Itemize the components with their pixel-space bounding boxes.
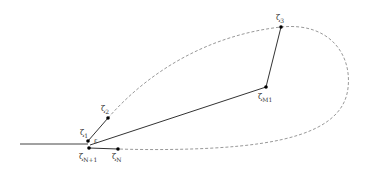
contour-diagram: ζ1 ζ2 ζ3 ζM1 ε ζN+1 ζN <box>0 0 369 174</box>
label-zeta1: ζ1 <box>80 129 88 139</box>
segment-epsilon-zetaM1 <box>90 87 266 145</box>
diagram-canvas <box>0 0 369 174</box>
label-zetaM1-sub: M1 <box>262 96 272 103</box>
segment-zetaM1-zeta3 <box>266 27 281 87</box>
label-epsilon: ε <box>94 138 98 145</box>
segment-zeta1-zeta2 <box>88 118 108 141</box>
point-zeta2 <box>106 116 110 120</box>
point-zetaN1 <box>87 146 91 150</box>
label-zeta2: ζ2 <box>101 105 109 115</box>
label-zeta1-sub: 1 <box>84 132 88 139</box>
label-zetaN: ζN <box>112 153 122 163</box>
label-zeta3-sub: 3 <box>280 17 284 24</box>
label-zeta3: ζ3 <box>276 14 284 24</box>
label-zetaN1-sub: N+1 <box>83 156 97 163</box>
point-zetaM1 <box>264 85 268 89</box>
label-zeta2-sub: 2 <box>105 108 109 115</box>
dashed-contour-curve <box>108 26 348 149</box>
label-epsilon-text: ε <box>94 137 98 145</box>
segment-zetaN1-zetaN <box>89 148 118 149</box>
label-zetaM1: ζM1 <box>258 93 272 103</box>
label-zetaN1: ζN+1 <box>79 153 97 163</box>
label-zetaN-sub: N <box>116 156 121 163</box>
point-zetaN <box>116 147 120 151</box>
point-zeta3 <box>279 25 283 29</box>
point-zeta1 <box>86 139 90 143</box>
